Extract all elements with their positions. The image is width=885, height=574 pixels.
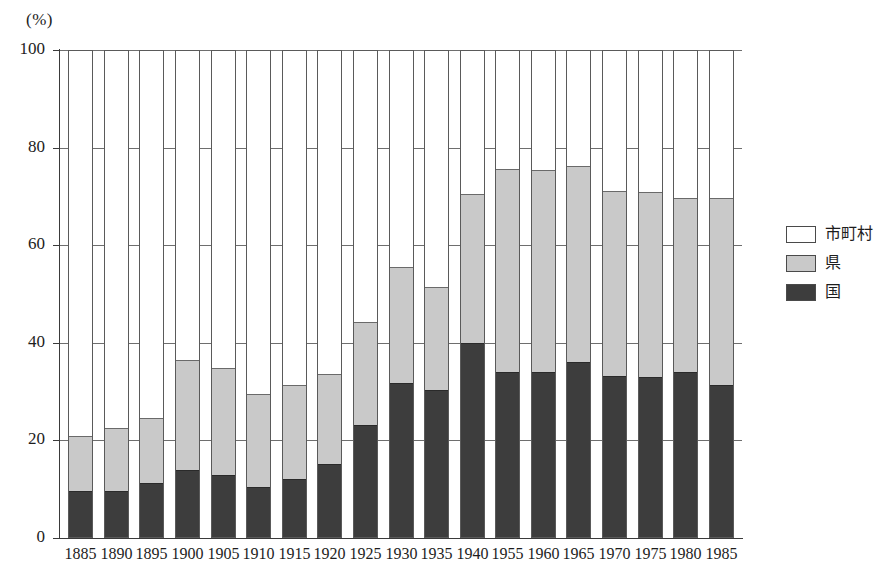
bar-1910 [246,50,271,538]
x-tick-label-1955: 1955 [489,545,526,563]
gray-swatch-icon [786,255,816,272]
segment-kuni-1905 [212,475,235,537]
segment-ken-1975 [639,192,662,376]
segment-kuni-1960 [532,372,555,537]
bar-1965 [566,50,591,538]
y-tick-100: 100 [53,50,60,51]
segment-ken-1980 [674,198,697,372]
segment-kuni-1925 [354,425,377,537]
segment-kuni-1935 [425,390,448,537]
x-tick-label-1900: 1900 [169,545,206,563]
dark-swatch-icon [786,284,816,301]
legend: 市町村 県 国 [786,224,873,311]
segment-ken-1885 [69,436,92,491]
x-tick-label-1930: 1930 [383,545,420,563]
segment-kuni-1980 [674,372,697,537]
x-tick-label-1985: 1985 [703,545,740,563]
segment-kuni-1920 [318,464,341,537]
legend-item-kuni: 国 [786,282,873,302]
y-tick-60: 60 [53,245,60,246]
y-tick-20: 20 [53,440,60,441]
segment-ken-1930 [390,267,413,383]
x-tick-label-1970: 1970 [596,545,633,563]
legend-item-shichoson: 市町村 [786,224,873,244]
y-tick-label-0: 0 [37,527,46,547]
x-tick-label-1960: 1960 [525,545,562,563]
segment-ken-1910 [247,394,270,487]
segment-ken-1960 [532,170,555,373]
y-tick-label-100: 100 [20,39,46,59]
segment-ken-1955 [496,169,519,372]
x-tick-label-1905: 1905 [205,545,242,563]
bar-1970 [602,50,627,538]
x-tick-label-1895: 1895 [133,545,170,563]
segment-kuni-1985 [710,385,733,537]
bar-1925 [353,50,378,538]
x-tick-label-1925: 1925 [347,545,384,563]
segment-kuni-1885 [69,491,92,537]
y-tick-40: 40 [53,343,60,344]
segment-kuni-1955 [496,372,519,537]
segment-ken-1925 [354,322,377,424]
bar-1975 [638,50,663,538]
segment-ken-1920 [318,374,341,464]
x-tick-label-1965: 1965 [560,545,597,563]
bar-1935 [424,50,449,538]
y-tick-0: 0 [53,538,60,539]
bar-1980 [673,50,698,538]
plot-area: 020406080100 [60,50,742,538]
bar-1900 [175,50,200,538]
bar-1915 [282,50,307,538]
legend-item-ken: 県 [786,253,873,273]
bar-1895 [139,50,164,538]
x-tick-label-1935: 1935 [418,545,455,563]
stacked-bar-chart: (%) 020406080100 市町村 県 国 188518901895190… [0,0,885,574]
segment-kuni-1910 [247,487,270,537]
white-swatch-icon [786,226,816,243]
x-tick-label-1975: 1975 [632,545,669,563]
segment-kuni-1890 [105,491,128,537]
legend-label-shichoson: 市町村 [825,226,873,242]
segment-ken-1890 [105,428,128,490]
segment-ken-1965 [567,166,590,362]
segment-kuni-1940 [461,343,484,537]
legend-label-kuni: 国 [825,284,841,300]
segment-ken-1985 [710,198,733,385]
x-tick-label-1885: 1885 [62,545,99,563]
segment-ken-1905 [212,368,235,475]
segment-kuni-1915 [283,479,306,537]
y-tick-label-20: 20 [28,429,45,449]
segment-kuni-1930 [390,383,413,537]
y-axis-unit-label: (%) [26,10,53,30]
bar-1955 [495,50,520,538]
y-tick-80: 80 [53,148,60,149]
y-tick-label-40: 40 [28,332,45,352]
x-tick-label-1940: 1940 [454,545,491,563]
bar-1940 [460,50,485,538]
segment-ken-1915 [283,385,306,480]
x-tick-label-1980: 1980 [667,545,704,563]
segment-ken-1940 [461,194,484,343]
segment-kuni-1895 [140,483,163,537]
bar-1905 [211,50,236,538]
segment-kuni-1900 [176,470,199,537]
segment-kuni-1975 [639,377,662,537]
legend-label-ken: 県 [825,255,841,271]
bar-1930 [389,50,414,538]
x-tick-label-1915: 1915 [276,545,313,563]
bar-1890 [104,50,129,538]
x-tick-label-1920: 1920 [311,545,348,563]
segment-kuni-1965 [567,362,590,537]
segment-kuni-1970 [603,376,626,537]
bar-1985 [709,50,734,538]
bar-1885 [68,50,93,538]
x-axis-line [59,538,743,539]
x-tick-label-1910: 1910 [240,545,277,563]
segment-ken-1900 [176,360,199,470]
segment-ken-1970 [603,191,626,376]
bar-1960 [531,50,556,538]
segment-ken-1935 [425,287,448,389]
segment-ken-1895 [140,418,163,483]
bar-1920 [317,50,342,538]
y-tick-label-80: 80 [28,137,45,157]
